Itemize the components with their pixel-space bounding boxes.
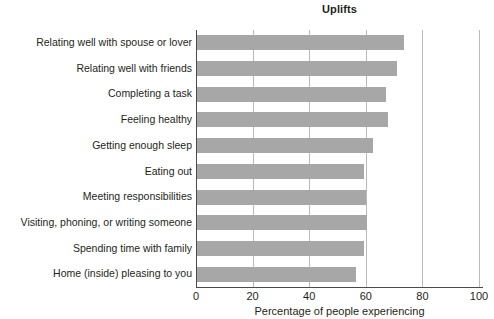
bar <box>196 61 397 76</box>
uplifts-bar-chart: Uplifts Relating well with spouse or lov… <box>0 0 494 319</box>
bar-row <box>196 184 366 210</box>
bar <box>196 215 367 230</box>
bar <box>196 112 388 127</box>
category-label: Eating out <box>0 159 192 185</box>
bar-row <box>196 133 373 159</box>
category-axis-labels: Relating well with spouse or loverRelati… <box>0 30 192 287</box>
bars <box>196 30 483 287</box>
x-tick-100: 100 <box>470 289 488 304</box>
bar-row <box>196 81 386 107</box>
bar-row <box>196 210 367 236</box>
bar-row <box>196 261 356 287</box>
category-label: Home (inside) pleasing to you <box>0 261 192 287</box>
x-axis-title: Percentage of people experiencing <box>196 304 483 319</box>
x-tick-80: 80 <box>416 289 428 304</box>
bar <box>196 267 356 282</box>
x-axis-line <box>196 287 483 288</box>
bar-row <box>196 107 388 133</box>
category-label: Feeling healthy <box>0 107 192 133</box>
category-label: Getting enough sleep <box>0 133 192 159</box>
y-axis-line <box>196 30 197 288</box>
category-label: Visiting, phoning, or writing someone <box>0 210 192 236</box>
bar <box>196 138 373 153</box>
plot-area <box>196 30 483 287</box>
bar <box>196 35 404 50</box>
x-axis-tick-labels: 020406080100 <box>0 289 494 305</box>
x-tick-20: 20 <box>246 289 258 304</box>
chart-title: Uplifts <box>196 2 483 16</box>
category-label: Meeting responsibilities <box>0 184 192 210</box>
x-tick-0: 0 <box>193 289 199 304</box>
bar-row <box>196 56 397 82</box>
bar <box>196 87 386 102</box>
category-label: Completing a task <box>0 81 192 107</box>
x-tick-60: 60 <box>360 289 372 304</box>
bar-row <box>196 159 364 185</box>
category-label: Spending time with family <box>0 236 192 262</box>
bar-row <box>196 236 364 262</box>
bar-row <box>196 30 404 56</box>
bar <box>196 241 364 256</box>
bar <box>196 164 364 179</box>
x-tick-40: 40 <box>303 289 315 304</box>
category-label: Relating well with spouse or lover <box>0 30 192 56</box>
bar <box>196 190 366 205</box>
category-label: Relating well with friends <box>0 56 192 82</box>
